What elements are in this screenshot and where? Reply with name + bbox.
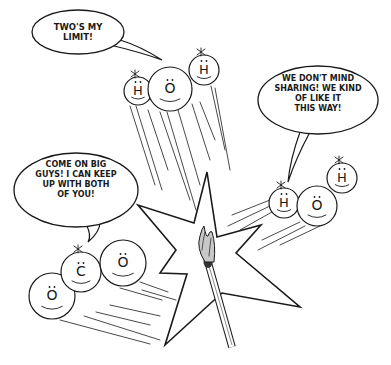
molecule-water-top: HOH (124, 48, 219, 111)
motion-line (228, 206, 270, 226)
eye (281, 193, 283, 195)
motion-line (258, 226, 305, 250)
atom-symbol: O (117, 254, 128, 270)
motion-line (148, 110, 168, 170)
motion-line (130, 106, 155, 185)
bubble-tail (288, 132, 310, 182)
atom-symbol: H (279, 195, 289, 210)
eye (286, 193, 288, 195)
eye (172, 79, 174, 81)
motion-line (211, 86, 225, 150)
atom-symbol: H (337, 170, 347, 185)
bubble-text-line: LIMIT! (63, 32, 93, 42)
motion-line (60, 320, 150, 344)
speech-bubble-hydrogen-top: TWO'S MYLIMIT! (32, 10, 162, 60)
eye (83, 262, 85, 264)
atom-symbol: H (199, 62, 209, 77)
eye (49, 286, 51, 288)
atom-O: O (100, 240, 146, 286)
eye (135, 81, 137, 83)
eye (54, 286, 56, 288)
motion-line (167, 112, 196, 210)
bubble-text-line: THIS WAY! (294, 104, 341, 113)
atom-symbol: O (311, 197, 322, 213)
eye (344, 168, 346, 170)
eye (339, 168, 341, 170)
motion-line (232, 200, 270, 215)
illustration-canvas: HOHHOHOCO TWO'S MYLIMIT!WE DON'T MINDSHA… (0, 0, 391, 365)
speech-bubble-water-right: WE DON'T MINDSHARING! WE KINDOF LIKE ITT… (258, 66, 378, 182)
eye (319, 196, 321, 198)
atom-symbol: O (164, 80, 175, 96)
atom-O: O (148, 67, 192, 111)
motion-line (110, 305, 160, 316)
atom-C: C (61, 245, 101, 292)
motion-line (215, 88, 230, 170)
motion-line (192, 104, 210, 160)
atom-H: H (189, 48, 219, 85)
bubble-text-line: OF LIKE IT (295, 94, 342, 103)
motion-line (142, 290, 176, 300)
motion-line (136, 106, 162, 190)
molecule-water-right: HOH (269, 156, 357, 226)
speech-bubble-carbon-left: COME ON BIGGUYS! I CAN KEEPUP WITH BOTHO… (14, 153, 138, 242)
eye (314, 196, 316, 198)
atom-H: H (327, 156, 357, 193)
eye (206, 60, 208, 62)
eye (120, 253, 122, 255)
bubble-text-line: OF YOU! (57, 190, 95, 199)
bubble-text-line: COME ON BIG (46, 160, 107, 169)
bubble-text-line: UP WITH BOTH (43, 180, 110, 189)
eye (167, 79, 169, 81)
motion-line (160, 112, 190, 200)
motion-line (262, 222, 300, 240)
atom-symbol: O (46, 287, 57, 303)
motion-line (96, 312, 150, 325)
motion-line (200, 102, 215, 140)
eye (125, 253, 127, 255)
atom-symbol: C (76, 263, 86, 279)
atom-symbol: H (133, 83, 143, 98)
atom-H: H (269, 181, 299, 218)
bubble-text-line: GUYS! I CAN KEEP (35, 170, 116, 179)
bubble-text-line: WE DON'T MIND (282, 74, 355, 83)
atom-O: O (297, 186, 337, 226)
molecule-carbon-dioxide: OCO (29, 240, 146, 319)
cartoon-illustration: HOHHOHOCO TWO'S MYLIMIT!WE DON'T MINDSHA… (0, 0, 391, 365)
bubble-text-line: SHARING! WE KIND (274, 84, 361, 93)
bubble-text-line: TWO'S MY (54, 22, 104, 32)
eye (140, 81, 142, 83)
eye (201, 60, 203, 62)
eye (78, 262, 80, 264)
